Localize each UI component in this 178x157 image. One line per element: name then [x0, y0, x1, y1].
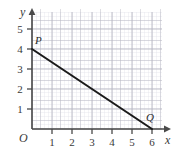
- coordinate-graph-figure: y x O 1 2 3 4 5 1 2 3 4 5 6 P Q: [0, 0, 178, 157]
- y-tick-label-2: 2: [13, 84, 27, 95]
- x-tick-label-3: 3: [85, 137, 99, 148]
- y-tick-label-4: 4: [13, 44, 27, 55]
- y-tick-label-1: 1: [13, 104, 27, 115]
- y-tick-label-5: 5: [13, 24, 27, 35]
- x-tick-label-6: 6: [145, 137, 159, 148]
- x-tick-label-4: 4: [105, 137, 119, 148]
- x-tick-label-1: 1: [45, 137, 59, 148]
- y-axis-label: y: [20, 6, 25, 18]
- origin-label: O: [19, 132, 28, 144]
- x-tick-label-2: 2: [65, 137, 79, 148]
- x-tick-label-5: 5: [125, 137, 139, 148]
- point-label-p: P: [35, 35, 42, 46]
- x-axis-label: x: [165, 134, 170, 146]
- point-label-q: Q: [146, 112, 154, 123]
- y-tick-label-3: 3: [13, 64, 27, 75]
